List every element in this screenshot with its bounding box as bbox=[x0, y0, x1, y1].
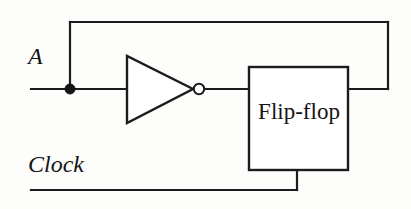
circuit-diagram: A Clock Flip-flop bbox=[0, 0, 411, 209]
flip-flop-block-label: Flip-flop bbox=[249, 100, 349, 123]
clock-signal-label: Clock bbox=[28, 152, 84, 176]
circuit-schematic-canvas bbox=[0, 0, 411, 209]
inverter-bubble-icon bbox=[194, 84, 204, 94]
inverter-triangle-icon bbox=[127, 56, 193, 123]
input-signal-label: A bbox=[28, 44, 43, 68]
junction-dot-icon bbox=[65, 84, 75, 94]
